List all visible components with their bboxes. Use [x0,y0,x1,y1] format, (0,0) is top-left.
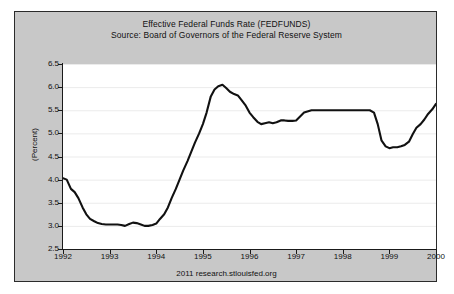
x-axis-tick-labels: 199219931994199519961997199819992000 [15,252,438,266]
y-tick-mark [58,203,63,204]
y-tick-label: 5.5 [23,106,59,114]
y-tick-label: 6.0 [23,83,59,91]
y-tick-mark [58,87,63,88]
x-tick-label: 2000 [416,252,454,262]
chart-panel: Effective Federal Funds Rate (FEDFUNDS) … [14,11,437,282]
y-tick-label: 6.5 [23,60,59,68]
y-tick-mark [58,157,63,158]
x-tick-mark [343,250,344,254]
x-tick-mark [63,250,64,254]
y-tick-label: 3.5 [23,199,59,207]
chart-title: Effective Federal Funds Rate (FEDFUNDS) [15,19,438,30]
plot-area [63,64,436,249]
chart-footer-source: 2011 research.stlouisfed.org [15,269,438,278]
x-tick-mark [389,250,390,254]
y-tick-mark [58,180,63,181]
gridlines [63,65,436,227]
y-tick-mark [58,64,63,65]
y-axis-tick-labels: 6.56.05.55.04.54.03.53.02.5 [15,12,59,283]
x-tick-mark [296,250,297,254]
y-tick-mark [58,226,63,227]
chart-title-block: Effective Federal Funds Rate (FEDFUNDS) … [15,19,438,41]
x-tick-mark [156,250,157,254]
chart-subtitle: Source: Board of Governors of the Federa… [15,30,438,41]
x-tick-mark [203,250,204,254]
series-line-fedfunds [63,85,436,226]
y-tick-label: 3.0 [23,222,59,230]
y-tick-mark [58,133,63,134]
y-tick-mark [58,110,63,111]
y-tick-label: 4.5 [23,153,59,161]
x-tick-mark [250,250,251,254]
y-tick-label: 4.0 [23,176,59,184]
x-tick-mark [110,250,111,254]
x-tick-mark [436,250,437,254]
chart-screenshot: Effective Federal Funds Rate (FEDFUNDS) … [0,0,454,294]
plot-svg [63,64,436,249]
y-tick-label: 5.0 [23,129,59,137]
